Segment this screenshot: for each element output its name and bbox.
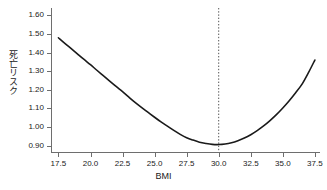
y-tick-mark [47, 34, 51, 35]
x-tick-label: 17.5 [51, 160, 67, 168]
y-tick-mark [47, 90, 51, 91]
y-tick-label: 1.50 [28, 30, 44, 38]
y-tick-mark [47, 71, 51, 72]
x-tick-mark [123, 153, 124, 157]
x-tick-mark [315, 153, 316, 157]
x-tick-mark [91, 153, 92, 157]
x-tick-mark [58, 153, 59, 157]
x-tick-label: 27.5 [179, 160, 195, 168]
x-tick-mark [187, 153, 188, 157]
chart-figure: 死亡リスク 0.901.001.101.201.301.401.501.60 1… [0, 0, 327, 190]
x-tick-label: 20.0 [83, 160, 99, 168]
x-tick-label: 22.5 [115, 160, 131, 168]
x-tick-label: 30.0 [211, 160, 227, 168]
x-tick-mark [155, 153, 156, 157]
risk-curve [58, 38, 314, 145]
y-tick-mark [47, 53, 51, 54]
y-tick-label: 1.30 [28, 67, 44, 75]
x-axis-title: BMI [0, 172, 327, 181]
y-tick-mark [47, 146, 51, 147]
x-tick-label: 35.0 [275, 160, 291, 168]
y-tick-mark [47, 15, 51, 16]
x-tick-label: 25.0 [147, 160, 163, 168]
y-tick-label: 1.10 [28, 104, 44, 112]
x-tick-label: 37.5 [307, 160, 323, 168]
y-tick-label: 1.60 [28, 11, 44, 19]
y-axis-title: 死亡リスク [4, 50, 18, 95]
y-tick-mark [47, 108, 51, 109]
y-tick-label: 1.20 [28, 86, 44, 94]
y-tick-label: 1.00 [28, 123, 44, 131]
x-tick-mark [251, 153, 252, 157]
y-tick-mark [47, 127, 51, 128]
x-tick-label: 32.5 [243, 160, 259, 168]
x-tick-mark [219, 153, 220, 157]
risk-curve-layer [52, 8, 320, 152]
x-tick-mark [283, 153, 284, 157]
y-tick-label: 0.90 [28, 142, 44, 150]
y-tick-label: 1.40 [28, 49, 44, 57]
plot-area [52, 8, 320, 152]
